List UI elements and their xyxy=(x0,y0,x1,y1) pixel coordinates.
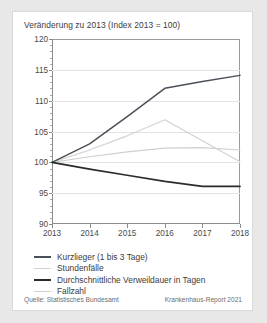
x-axis-tick xyxy=(165,224,166,228)
x-axis-tick-label: 2016 xyxy=(145,229,185,238)
chart-card: Veränderung zu 2013 (Index 2013 = 100) 1… xyxy=(12,11,253,311)
x-axis-tick-label: 2018 xyxy=(220,229,260,238)
series-line xyxy=(52,162,240,186)
y-axis-tick-label: 110 xyxy=(22,96,48,105)
series-line xyxy=(52,120,240,163)
x-axis-tick xyxy=(127,224,128,228)
source-note: Quelle: Statistisches Bundesamt xyxy=(24,296,119,303)
y-axis-tick-label: 120 xyxy=(22,35,48,44)
x-axis-tick-label: 2017 xyxy=(182,229,222,238)
legend-swatch xyxy=(34,291,51,292)
y-axis-tick-label: 100 xyxy=(22,158,48,167)
y-axis-tick-label: 115 xyxy=(22,65,48,74)
plot-area: 1201151101051009590 20132014201520162017… xyxy=(52,39,240,224)
legend-swatch xyxy=(34,268,51,269)
report-note: Krankenhaus-Report 2021 xyxy=(165,296,242,303)
x-axis-tick-label: 2015 xyxy=(107,229,147,238)
x-axis-tick-label: 2013 xyxy=(32,229,72,238)
x-axis-tick-label: 2014 xyxy=(70,229,110,238)
chart-footer: Quelle: Statistisches Bundesamt Krankenh… xyxy=(24,296,242,303)
legend-label: Stundenfälle xyxy=(57,263,104,273)
legend-item[interactable]: Kurzlieger (1 bis 3 Tage) xyxy=(32,251,246,263)
x-axis-tick xyxy=(90,224,91,228)
x-axis-tick xyxy=(52,224,53,228)
y-axis-tick-label: 105 xyxy=(22,127,48,136)
chart-title: Veränderung zu 2013 (Index 2013 = 100) xyxy=(24,20,180,30)
series-lines xyxy=(52,39,240,224)
series-line xyxy=(52,75,240,162)
legend-swatch xyxy=(34,279,51,281)
legend-label: Fallzahl xyxy=(57,286,86,296)
y-axis-tick-label: 95 xyxy=(22,189,48,198)
x-axis-tick xyxy=(240,224,241,228)
legend-label: Kurzlieger (1 bis 3 Tage) xyxy=(57,252,148,262)
y-axis-tick-label: 90 xyxy=(22,220,48,229)
legend-swatch xyxy=(34,256,51,258)
x-axis-tick xyxy=(202,224,203,228)
legend-label: Durchschnittliche Verweildauer in Tagen xyxy=(57,275,205,285)
legend-item[interactable]: Stundenfälle xyxy=(32,263,246,275)
legend-item[interactable]: Durchschnittliche Verweildauer in Tagen xyxy=(32,274,246,286)
chart-legend: Kurzlieger (1 bis 3 Tage)StundenfälleDur… xyxy=(32,251,246,297)
series-line xyxy=(52,148,240,163)
